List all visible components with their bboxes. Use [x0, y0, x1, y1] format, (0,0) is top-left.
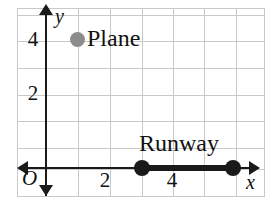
- gridline-horizontal: [18, 121, 264, 122]
- y-tick-label-4: 4: [24, 29, 42, 50]
- origin-label: O: [22, 168, 37, 189]
- x-axis-label: x: [246, 172, 255, 192]
- runway-segment: [141, 165, 233, 171]
- y-axis-label: y: [55, 6, 64, 26]
- coordinate-plane-figure: y x O 4 2 2 4 Plane Runway: [0, 0, 279, 205]
- gridline-horizontal: [18, 68, 264, 69]
- y-axis-arrow-down-icon: [39, 185, 53, 196]
- runway-end-point-marker: [225, 160, 241, 176]
- gridline-horizontal: [18, 41, 264, 42]
- x-tick-label-2: 2: [95, 170, 115, 191]
- plane-label: Plane: [87, 26, 140, 50]
- x-tick-label-4: 4: [162, 170, 182, 191]
- y-axis-arrow-up-icon: [39, 4, 53, 15]
- runway-label: Runway: [139, 131, 219, 155]
- gridline-horizontal: [18, 95, 264, 96]
- plane-point-marker: [70, 32, 85, 47]
- runway-start-point-marker: [134, 160, 150, 176]
- y-tick-label-2: 2: [24, 83, 42, 104]
